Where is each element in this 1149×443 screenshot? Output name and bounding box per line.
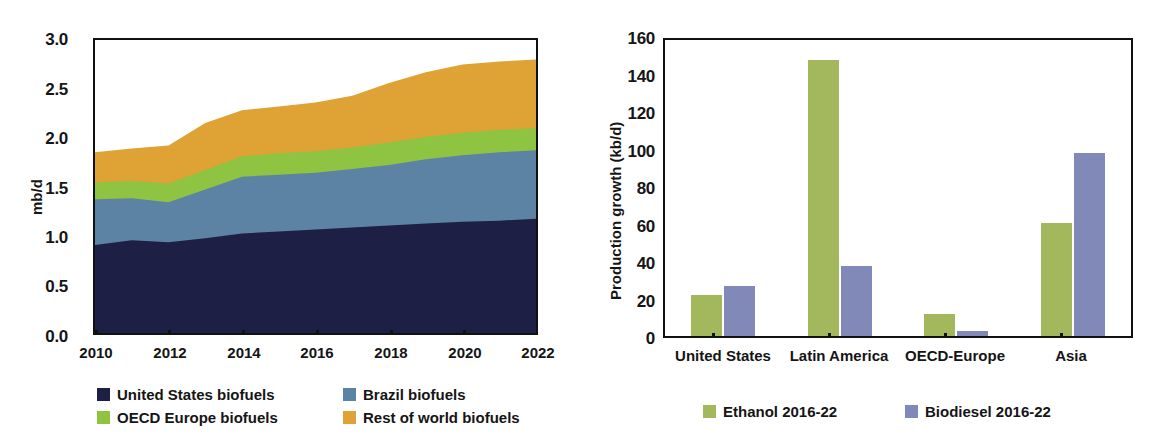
right-ytick-0: 0 bbox=[613, 330, 655, 347]
right-xtick-latin-america: Latin America bbox=[781, 348, 897, 363]
legend-item-ethanol-2016-22[interactable]: Ethanol 2016-22 bbox=[703, 403, 837, 420]
left-ytick-5: 2.5 bbox=[20, 81, 68, 98]
left-ytick-6: 3.0 bbox=[20, 31, 68, 48]
legend-swatch-oecd-europe-biofuels bbox=[97, 411, 110, 424]
right-xtickmark-1 bbox=[712, 333, 715, 338]
bar-oecd-europe-ethanol bbox=[924, 314, 955, 336]
right-ytick-140: 140 bbox=[613, 68, 655, 85]
left-chart-area-series bbox=[95, 40, 536, 333]
left-xtick-2012: 2012 bbox=[134, 345, 206, 360]
left-xtick-2022: 2022 bbox=[502, 345, 574, 360]
bar-united-states-ethanol bbox=[691, 295, 722, 336]
left-xtickmark-2020 bbox=[463, 330, 466, 335]
legend-item-united-states-biofuels[interactable]: United States biofuels bbox=[97, 386, 275, 403]
left-xtick-2010: 2010 bbox=[60, 345, 132, 360]
left-xtick-2018: 2018 bbox=[355, 345, 427, 360]
right-ytick-160: 160 bbox=[613, 30, 655, 47]
legend-swatch-ethanol bbox=[703, 405, 716, 418]
legend-label-brazil-biofuels: Brazil biofuels bbox=[363, 386, 466, 403]
right-ytick-120: 120 bbox=[613, 105, 655, 122]
legend-label-biodiesel: Biodiesel 2016-22 bbox=[925, 403, 1051, 420]
left-ytick-0: 0.0 bbox=[20, 328, 68, 345]
right-ytick-60: 60 bbox=[613, 218, 655, 235]
legend-label-united-states-biofuels: United States biofuels bbox=[117, 386, 275, 403]
bar-united-states-biodiesel bbox=[724, 286, 755, 336]
legend-swatch-rest-of-world-biofuels bbox=[343, 411, 356, 424]
left-xtickmark-2018 bbox=[390, 330, 393, 335]
bar-asia-ethanol bbox=[1041, 223, 1072, 336]
legend-swatch-brazil-biofuels bbox=[343, 388, 356, 401]
bar-oecd-europe-biodiesel bbox=[957, 331, 988, 337]
legend-swatch-biodiesel bbox=[905, 405, 918, 418]
right-chart-bars bbox=[665, 40, 1131, 336]
left-xtickmark-2016 bbox=[316, 330, 319, 335]
figure-container: mb/d 0.0 0.5 1.0 1.5 2.0 2.5 3.0 2010 20… bbox=[0, 0, 1149, 443]
legend-item-biodiesel-2016-22[interactable]: Biodiesel 2016-22 bbox=[905, 403, 1051, 420]
legend-item-brazil-biofuels[interactable]: Brazil biofuels bbox=[343, 386, 466, 403]
legend-item-rest-of-world-biofuels[interactable]: Rest of world biofuels bbox=[343, 409, 520, 426]
right-xtickmark-2 bbox=[828, 333, 831, 338]
left-xtick-2020: 2020 bbox=[429, 345, 501, 360]
left-xtickmark-2014 bbox=[242, 330, 245, 335]
left-xtickmark-2010 bbox=[95, 330, 98, 335]
legend-swatch-united-states-biofuels bbox=[97, 388, 110, 401]
legend-label-rest-of-world-biofuels: Rest of world biofuels bbox=[363, 409, 520, 426]
right-ytick-80: 80 bbox=[613, 180, 655, 197]
figure-title-fragment bbox=[0, 0, 575, 7]
right-xtick-oecd-europe: OECD-Europe bbox=[897, 348, 1013, 363]
left-ytick-4: 2.0 bbox=[20, 130, 68, 147]
left-xtick-2014: 2014 bbox=[208, 345, 280, 360]
left-ytick-2: 1.0 bbox=[20, 229, 68, 246]
right-xtick-united-states: United States bbox=[665, 348, 781, 363]
right-ytick-40: 40 bbox=[613, 255, 655, 272]
right-ytick-100: 100 bbox=[613, 143, 655, 160]
bar-latin-america-ethanol bbox=[808, 60, 839, 336]
left-ytick-3: 1.5 bbox=[20, 180, 68, 197]
right-chart-panel: Production growth (kb/d) 0 20 40 60 80 1… bbox=[575, 0, 1149, 443]
legend-label-oecd-europe-biofuels: OECD Europe biofuels bbox=[117, 409, 278, 426]
legend-item-oecd-europe-biofuels[interactable]: OECD Europe biofuels bbox=[97, 409, 278, 426]
right-xtickmark-3 bbox=[944, 333, 947, 338]
left-xtickmark-2012 bbox=[168, 330, 171, 335]
left-chart-panel: mb/d 0.0 0.5 1.0 1.5 2.0 2.5 3.0 2010 20… bbox=[0, 0, 575, 443]
right-xtickmark-4 bbox=[1060, 333, 1063, 338]
legend-label-ethanol: Ethanol 2016-22 bbox=[723, 403, 837, 420]
left-ytick-1: 0.5 bbox=[20, 278, 68, 295]
right-xtick-asia: Asia bbox=[1013, 348, 1129, 363]
bar-asia-biodiesel bbox=[1074, 153, 1105, 336]
left-xtick-2016: 2016 bbox=[281, 345, 353, 360]
right-ytick-20: 20 bbox=[613, 293, 655, 310]
bar-latin-america-biodiesel bbox=[841, 266, 872, 336]
